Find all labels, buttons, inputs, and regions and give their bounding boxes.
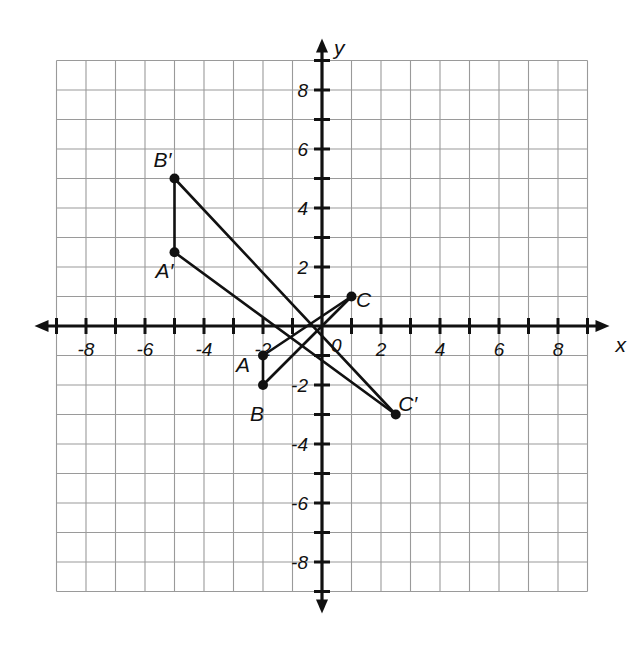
y-axis-arrow-up bbox=[316, 39, 328, 53]
point-label-C-prime: C′ bbox=[398, 392, 418, 415]
y-axis-arrow-down bbox=[316, 600, 328, 614]
y-axis-label: y bbox=[332, 36, 346, 59]
point-label-B-prime: B′ bbox=[154, 148, 173, 171]
point-B-prime bbox=[170, 174, 180, 184]
y-axis-tick-label: -2 bbox=[291, 375, 308, 396]
y-axis-tick-label: -4 bbox=[291, 434, 308, 455]
segment-CprimeAprime bbox=[175, 252, 396, 414]
x-axis-tick-label: 8 bbox=[553, 339, 564, 360]
x-axis-tick-label: -4 bbox=[196, 339, 213, 360]
x-axis-label: x bbox=[615, 333, 628, 356]
x-axis-arrow-right bbox=[596, 320, 610, 332]
point-B bbox=[258, 380, 268, 390]
y-axis-tick-label: 4 bbox=[297, 198, 308, 219]
point-label-A-prime: A′ bbox=[154, 259, 175, 282]
y-axis-tick-label: 2 bbox=[296, 257, 308, 278]
x-axis-tick-label: 6 bbox=[494, 339, 505, 360]
point-A bbox=[258, 351, 268, 361]
x-axis-tick-label: 2 bbox=[375, 339, 387, 360]
y-axis-tick-label: 6 bbox=[297, 139, 308, 160]
point-label-C: C bbox=[356, 288, 372, 311]
y-axis-tick-label: 8 bbox=[297, 80, 308, 101]
point-label-B: B bbox=[250, 402, 264, 425]
x-axis-tick-label: -6 bbox=[137, 339, 154, 360]
y-axis-tick-label: -8 bbox=[291, 552, 308, 573]
y-axis-tick-label: -6 bbox=[291, 493, 308, 514]
x-axis-tick-label: -8 bbox=[78, 339, 95, 360]
coordinate-plane-figure: -8-6-4-224688642-2-4-6-80 ABCA′B′C′ xy bbox=[0, 0, 640, 655]
x-axis-arrow-left bbox=[35, 320, 49, 332]
point-label-A: A bbox=[234, 353, 250, 376]
axis-name-layer: xy bbox=[332, 36, 628, 357]
point-label-layer: ABCA′B′C′ bbox=[154, 148, 419, 426]
coordinate-plane-svg: -8-6-4-224688642-2-4-6-80 ABCA′B′C′ xy bbox=[0, 0, 640, 655]
point-A-prime bbox=[170, 247, 180, 257]
x-axis-tick-label: 4 bbox=[435, 339, 446, 360]
